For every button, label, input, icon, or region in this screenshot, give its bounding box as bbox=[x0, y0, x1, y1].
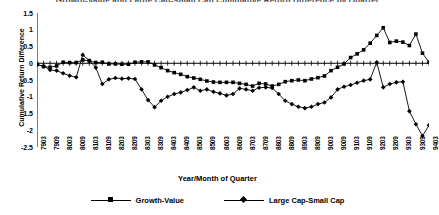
data-point bbox=[231, 81, 235, 85]
data-point bbox=[309, 105, 314, 110]
data-point bbox=[172, 71, 176, 75]
x-tick-label: 8203 bbox=[118, 136, 125, 150]
data-point bbox=[133, 77, 138, 82]
data-point bbox=[94, 61, 98, 65]
data-point bbox=[192, 85, 197, 90]
x-tick-label: 9309 bbox=[419, 136, 426, 150]
data-point bbox=[185, 75, 189, 79]
data-point bbox=[61, 60, 65, 64]
data-point bbox=[68, 61, 72, 65]
x-tick-label: 9009 bbox=[340, 136, 347, 150]
data-point bbox=[211, 89, 216, 94]
data-point bbox=[74, 61, 78, 65]
data-point bbox=[146, 60, 150, 64]
data-point bbox=[199, 78, 203, 82]
data-point bbox=[192, 76, 196, 80]
data-point bbox=[427, 60, 429, 64]
data-point bbox=[348, 83, 353, 88]
x-tick-label: 8503 bbox=[196, 136, 203, 150]
legend-marker-square-icon bbox=[91, 195, 131, 205]
legend-label: Growth-Value bbox=[136, 196, 184, 205]
y-tick-label: -2 bbox=[3, 127, 33, 134]
data-point bbox=[114, 62, 118, 66]
data-point bbox=[179, 73, 183, 77]
x-tick-label: 9209 bbox=[392, 136, 399, 150]
data-point bbox=[225, 81, 229, 85]
data-point bbox=[61, 71, 66, 76]
data-point bbox=[362, 48, 366, 52]
data-point bbox=[218, 81, 222, 85]
data-point bbox=[257, 82, 261, 86]
data-point bbox=[381, 85, 386, 90]
x-tick-label: 9403 bbox=[432, 136, 439, 150]
x-tick-label: 8009 bbox=[79, 136, 86, 150]
data-point bbox=[133, 60, 137, 64]
y-tick-label: -1 bbox=[3, 93, 33, 100]
x-tick-label: 8709 bbox=[262, 136, 269, 150]
data-point bbox=[368, 77, 373, 82]
data-point bbox=[101, 60, 105, 64]
data-point bbox=[67, 73, 72, 78]
x-tick-label: 8903 bbox=[301, 136, 308, 150]
data-point bbox=[296, 105, 301, 110]
data-point bbox=[388, 82, 393, 87]
y-tick-label: 1.5 bbox=[3, 10, 33, 17]
data-point bbox=[212, 80, 216, 84]
data-point bbox=[381, 26, 385, 30]
series-canvas bbox=[37, 13, 429, 147]
data-point bbox=[120, 62, 124, 66]
data-point bbox=[218, 91, 223, 96]
data-point bbox=[355, 52, 359, 56]
legend-item-0[interactable]: Growth-Value bbox=[91, 194, 184, 206]
data-point bbox=[54, 68, 59, 73]
data-point bbox=[238, 82, 242, 86]
legend-label: Large Cap-Small Cap bbox=[269, 196, 344, 205]
x-tick-label: 8403 bbox=[170, 136, 177, 150]
data-point bbox=[297, 78, 301, 82]
data-point bbox=[303, 106, 308, 111]
x-tick-label: 7903 bbox=[40, 136, 47, 150]
x-tick-label: 9103 bbox=[353, 136, 360, 150]
data-point bbox=[316, 102, 321, 107]
x-tick-label: 8509 bbox=[209, 136, 216, 150]
data-point bbox=[120, 76, 125, 81]
y-tick-label: -0.5 bbox=[3, 77, 33, 84]
data-point bbox=[395, 39, 399, 43]
y-tick-label: -1.5 bbox=[3, 110, 33, 117]
data-point bbox=[421, 51, 425, 55]
legend-item-1[interactable]: Large Cap-Small Cap bbox=[224, 194, 344, 206]
data-point bbox=[55, 64, 59, 68]
x-tick-label: 8003 bbox=[66, 136, 73, 150]
data-point bbox=[178, 90, 183, 95]
data-point bbox=[408, 44, 412, 48]
data-point bbox=[323, 74, 327, 78]
data-point bbox=[368, 41, 372, 45]
x-tick-label: 8609 bbox=[236, 136, 243, 150]
data-point bbox=[251, 84, 255, 88]
data-point bbox=[74, 75, 79, 80]
chart-title: Growth-Value and Large Cap-Small Cap Cum… bbox=[0, 0, 435, 2]
data-point bbox=[250, 88, 255, 93]
data-point bbox=[244, 87, 249, 92]
x-tick-label: 9003 bbox=[327, 136, 334, 150]
data-point bbox=[375, 34, 379, 38]
x-tick-label: 9109 bbox=[366, 136, 373, 150]
data-point bbox=[277, 83, 281, 87]
data-point bbox=[394, 80, 399, 85]
x-tick-label: 8209 bbox=[131, 136, 138, 150]
x-tick-label: 8303 bbox=[144, 136, 151, 150]
data-point bbox=[166, 69, 170, 73]
data-point bbox=[342, 84, 347, 89]
x-tick-label: 8603 bbox=[223, 136, 230, 150]
data-point bbox=[126, 76, 131, 81]
data-point bbox=[224, 93, 229, 98]
plot-area bbox=[37, 13, 429, 147]
data-point bbox=[139, 87, 144, 92]
data-point bbox=[329, 69, 333, 73]
y-tick-label: -2.5 bbox=[3, 144, 33, 151]
y-tick-label: 1 bbox=[3, 26, 33, 33]
data-point bbox=[244, 83, 248, 87]
data-point bbox=[140, 60, 144, 64]
x-tick-label: 8409 bbox=[183, 136, 190, 150]
